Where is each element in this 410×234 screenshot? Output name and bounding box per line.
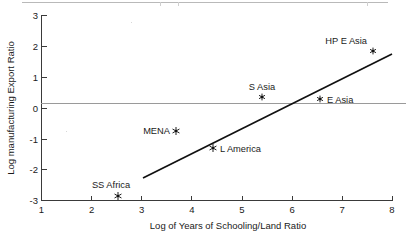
data-point-mena[interactable] — [173, 127, 180, 135]
point-label-mena: MENA — [143, 126, 171, 136]
x-tick-label-1: 1 — [39, 204, 44, 215]
y-tick-label-neg3: -3 — [30, 195, 38, 206]
x-tick-label-3: 3 — [139, 204, 144, 215]
x-tick-label-6: 6 — [289, 204, 294, 215]
y-axis-title: Log manufacturing Export Ratio — [5, 41, 16, 175]
x-tick-label-8: 8 — [389, 204, 394, 215]
x-tick-labels: 1 2 3 4 5 6 7 8 — [39, 204, 395, 215]
y-tick-label-3: 3 — [33, 10, 38, 21]
x-axis-title: Log of Years of Schooling/Land Ratio — [150, 220, 306, 231]
y-tick-label-2: 2 — [33, 41, 38, 52]
point-label-hp-e-asia: HP E Asia — [325, 36, 368, 46]
x-tick-label-4: 4 — [189, 204, 194, 215]
point-label-l-america: L America — [220, 144, 262, 154]
y-axis-ticks — [42, 16, 47, 201]
point-label-e-asia: E Asia — [327, 95, 354, 105]
y-tick-label-1: 1 — [33, 72, 38, 83]
y-tick-labels: 3 2 1 0 -1 -2 -3 — [30, 10, 38, 206]
y-tick-label-0: 0 — [33, 103, 38, 114]
y-tick-label-neg1: -1 — [30, 134, 38, 145]
y-tick-label-neg2: -2 — [30, 164, 38, 175]
data-point-e-asia[interactable] — [317, 96, 323, 103]
data-point-ss-africa[interactable] — [115, 192, 122, 200]
point-label-ss-africa: SS Africa — [92, 180, 131, 190]
x-axis-ticks — [42, 196, 393, 201]
chart-figure: 3 2 1 0 -1 -2 -3 1 2 3 4 5 6 7 8 Log of … — [0, 0, 410, 234]
x-tick-label-2: 2 — [89, 204, 94, 215]
x-tick-label-7: 7 — [340, 204, 345, 215]
data-point-hp-e-asia[interactable] — [370, 48, 376, 55]
x-tick-label-5: 5 — [239, 204, 244, 215]
fitted-trend-line — [143, 54, 392, 178]
scatter-plot-canvas: 3 2 1 0 -1 -2 -3 1 2 3 4 5 6 7 8 Log of … — [0, 0, 410, 234]
data-point-s-asia[interactable] — [259, 94, 265, 101]
point-label-s-asia: S Asia — [249, 82, 276, 92]
